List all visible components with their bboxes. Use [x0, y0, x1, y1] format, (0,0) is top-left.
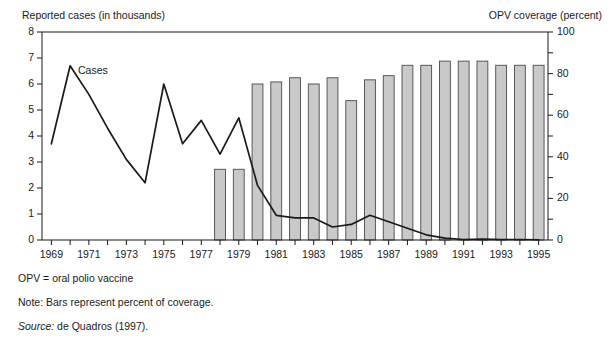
source-keyword: Source:	[18, 320, 54, 332]
x-axis-tick-label: 1993	[481, 248, 521, 260]
x-axis-tick-label: 1977	[181, 248, 221, 260]
x-axis-tick-label: 1981	[256, 248, 296, 260]
coverage-bar	[308, 84, 319, 240]
coverage-bar	[533, 65, 544, 240]
coverage-bar	[290, 78, 301, 240]
polio-cases-opv-coverage-figure: Reported cases (in thousands) OPV covera…	[0, 0, 610, 348]
coverage-bar	[233, 169, 244, 240]
x-axis-tick-label: 1991	[444, 248, 484, 260]
x-axis-tick-label: 1969	[31, 248, 71, 260]
right-axis-tick-label: 60	[557, 108, 587, 120]
left-axis-tick-label: 1	[12, 207, 34, 219]
coverage-bar	[215, 169, 226, 240]
left-axis-tick-label: 3	[12, 155, 34, 167]
left-axis-tick-label: 8	[12, 25, 34, 37]
x-axis-tick-label: 1973	[106, 248, 146, 260]
note-bars-meaning: Note: Bars represent percent of coverage…	[18, 296, 214, 308]
x-axis-tick-label: 1975	[144, 248, 184, 260]
left-axis-tick-label: 5	[12, 103, 34, 115]
coverage-bar	[346, 101, 357, 240]
coverage-bar	[402, 65, 413, 240]
x-axis-tick-label: 1987	[369, 248, 409, 260]
left-axis-tick-label: 2	[12, 181, 34, 193]
right-axis-tick-label: 40	[557, 150, 587, 162]
coverage-bar	[439, 61, 450, 240]
x-axis-tick-label: 1971	[69, 248, 109, 260]
x-axis-tick-label: 1985	[331, 248, 371, 260]
x-axis-tick-label: 1995	[519, 248, 559, 260]
left-axis-tick-label: 0	[12, 233, 34, 245]
right-axis-tick-label: 80	[557, 67, 587, 79]
coverage-bar	[477, 61, 488, 240]
note-source: Source: de Quadros (1997).	[18, 320, 148, 332]
right-axis-tick-label: 0	[557, 233, 587, 245]
coverage-bar	[458, 61, 469, 240]
x-axis-tick-label: 1979	[219, 248, 259, 260]
right-axis-tick-label: 100	[557, 25, 587, 37]
left-axis-tick-label: 7	[12, 51, 34, 63]
right-axis-tick-label: 20	[557, 191, 587, 203]
coverage-bar	[514, 65, 525, 240]
coverage-bar	[252, 84, 263, 240]
x-axis-tick-label: 1989	[406, 248, 446, 260]
coverage-bar	[496, 65, 507, 240]
coverage-bar	[421, 65, 432, 240]
note-opv-abbreviation: OPV = oral polio vaccine	[18, 272, 133, 284]
left-axis-tick-label: 4	[12, 129, 34, 141]
coverage-bar	[327, 78, 338, 240]
coverage-bar	[383, 76, 394, 240]
x-axis-tick-label: 1983	[294, 248, 334, 260]
left-axis-tick-label: 6	[12, 77, 34, 89]
source-citation: de Quadros (1997).	[54, 320, 148, 332]
